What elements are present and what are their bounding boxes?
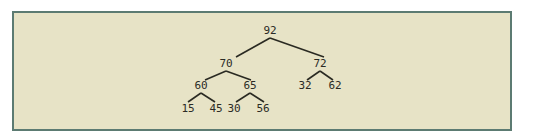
edge-70-60 (205, 71, 226, 80)
node-level1-left: 70 (219, 57, 232, 70)
node-level3-c: 30 (227, 102, 240, 115)
node-level3-a: 15 (181, 102, 194, 115)
edge-60-45 (201, 93, 215, 102)
edge-92-70 (236, 38, 270, 57)
node-level1-right: 72 (313, 57, 326, 70)
tree-edges (188, 38, 333, 102)
edge-65-56 (250, 93, 264, 102)
node-root: 92 (263, 24, 276, 37)
node-level2-b: 65 (243, 79, 256, 92)
node-level3-b: 45 (209, 102, 222, 115)
node-level2-d: 62 (328, 79, 341, 92)
node-level3-d: 56 (256, 102, 269, 115)
edge-65-30 (236, 93, 250, 102)
binary-tree-diagram: 92 70 72 60 65 32 62 15 45 30 56 (0, 0, 537, 138)
node-level2-a: 60 (194, 79, 207, 92)
edge-92-72 (270, 38, 324, 57)
node-level2-c: 32 (298, 79, 311, 92)
tree-nodes: 92 70 72 60 65 32 62 15 45 30 56 (181, 24, 341, 115)
edge-60-15 (188, 93, 201, 102)
